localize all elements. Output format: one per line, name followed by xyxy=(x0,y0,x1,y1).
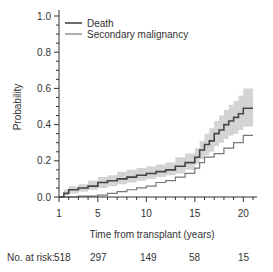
risk-value: 58 xyxy=(189,252,200,263)
svg-text:15: 15 xyxy=(189,208,201,219)
svg-text:Death: Death xyxy=(87,18,114,29)
svg-text:0.8: 0.8 xyxy=(37,47,51,58)
risk-value: 297 xyxy=(90,252,107,263)
svg-text:0.6: 0.6 xyxy=(37,83,51,94)
svg-text:Secondary malignancy: Secondary malignancy xyxy=(87,29,188,40)
svg-text:1.0: 1.0 xyxy=(37,11,51,22)
risk-value: 15 xyxy=(238,252,249,263)
svg-text:1: 1 xyxy=(56,208,62,219)
cumulative-incidence-chart: 0.00.20.40.60.81.015101520 DeathSecondar… xyxy=(0,0,273,250)
svg-text:0.4: 0.4 xyxy=(37,119,51,130)
svg-text:5: 5 xyxy=(95,208,101,219)
svg-text:20: 20 xyxy=(238,208,250,219)
risk-label: No. at risk: xyxy=(7,252,55,263)
svg-text:10: 10 xyxy=(141,208,153,219)
legend: DeathSecondary malignancy xyxy=(65,18,188,40)
svg-text:0.2: 0.2 xyxy=(37,155,51,166)
risk-value: 149 xyxy=(140,252,157,263)
risk-value: 518 xyxy=(54,252,71,263)
svg-text:0.0: 0.0 xyxy=(37,192,51,203)
number-at-risk-row: No. at risk: 518 297 149 58 15 xyxy=(0,252,273,266)
y-axis-title: Probability xyxy=(12,84,23,131)
confidence-band-death xyxy=(59,88,253,197)
x-axis-title: Time from transplant (years) xyxy=(89,229,214,240)
